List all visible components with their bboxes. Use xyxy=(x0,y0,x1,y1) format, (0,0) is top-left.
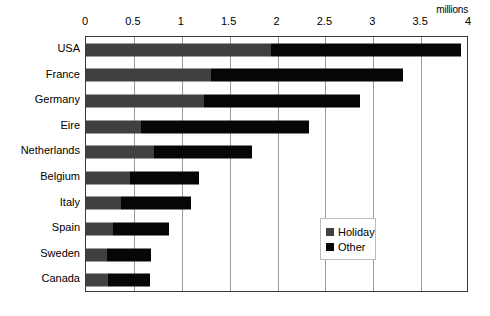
stacked-bar[interactable] xyxy=(86,274,150,287)
bar-row[interactable] xyxy=(86,63,467,89)
stacked-bar[interactable] xyxy=(86,43,461,56)
category-label: Germany xyxy=(0,87,80,113)
x-tick-label: 4 xyxy=(465,15,471,27)
y-axis-category-labels: USAFranceGermanyEireNetherlandsBelgiumIt… xyxy=(0,36,80,292)
legend-label: Holiday xyxy=(338,226,375,238)
bar-row[interactable] xyxy=(86,114,467,140)
bar-segment-other[interactable] xyxy=(121,197,191,210)
x-tick-label: 0 xyxy=(82,15,88,27)
bar-segment-holiday[interactable] xyxy=(86,94,204,107)
stacked-bar[interactable] xyxy=(86,120,309,133)
bar-row[interactable] xyxy=(86,88,467,114)
bar-segment-holiday[interactable] xyxy=(86,120,141,133)
legend-item[interactable]: Holiday xyxy=(326,224,370,239)
bar-rows xyxy=(86,37,467,291)
stacked-bar[interactable] xyxy=(86,146,252,159)
x-axis-tick-labels: 00.511.522.533.54 xyxy=(0,15,490,31)
bar-segment-holiday[interactable] xyxy=(86,274,108,287)
bar-segment-other[interactable] xyxy=(141,120,310,133)
x-tick-label: 2 xyxy=(273,15,279,27)
stacked-bar[interactable] xyxy=(86,197,191,210)
bar-chart: millions 00.511.522.533.54 USAFranceGerm… xyxy=(0,0,490,316)
bar-row[interactable] xyxy=(86,37,467,63)
bar-segment-holiday[interactable] xyxy=(86,146,154,159)
bar-row[interactable] xyxy=(86,242,467,268)
bar-row[interactable] xyxy=(86,191,467,217)
plot-area xyxy=(85,36,468,292)
bar-segment-other[interactable] xyxy=(154,146,252,159)
bar-segment-other[interactable] xyxy=(107,248,151,261)
category-label: Italy xyxy=(0,190,80,216)
stacked-bar[interactable] xyxy=(86,69,403,82)
legend-item[interactable]: Other xyxy=(326,239,370,254)
bar-segment-holiday[interactable] xyxy=(86,171,130,184)
stacked-bar[interactable] xyxy=(86,222,169,235)
bar-segment-other[interactable] xyxy=(108,274,150,287)
stacked-bar[interactable] xyxy=(86,171,199,184)
x-tick-label: 3.5 xyxy=(412,15,427,27)
stacked-bar[interactable] xyxy=(86,94,360,107)
x-tick-label: 1.5 xyxy=(221,15,236,27)
legend-label: Other xyxy=(338,241,366,253)
category-label: Sweden xyxy=(0,241,80,267)
stacked-bar[interactable] xyxy=(86,248,151,261)
x-tick-label: 2.5 xyxy=(317,15,332,27)
bar-row[interactable] xyxy=(86,139,467,165)
chart-legend: HolidayOther xyxy=(320,218,376,260)
axis-unit-label: millions xyxy=(436,4,468,15)
category-label: Canada xyxy=(0,266,80,292)
bar-segment-other[interactable] xyxy=(130,171,199,184)
bar-segment-holiday[interactable] xyxy=(86,69,211,82)
bar-segment-holiday[interactable] xyxy=(86,248,107,261)
category-label: France xyxy=(0,62,80,88)
bar-segment-other[interactable] xyxy=(113,222,169,235)
bar-row[interactable] xyxy=(86,267,467,293)
category-label: USA xyxy=(0,36,80,62)
bar-segment-holiday[interactable] xyxy=(86,222,113,235)
bar-row[interactable] xyxy=(86,165,467,191)
x-tick-label: 1 xyxy=(178,15,184,27)
bar-segment-holiday[interactable] xyxy=(86,197,121,210)
bar-segment-holiday[interactable] xyxy=(86,43,271,56)
legend-swatch-icon xyxy=(326,228,334,236)
bar-segment-other[interactable] xyxy=(271,43,462,56)
category-label: Spain xyxy=(0,215,80,241)
bar-segment-other[interactable] xyxy=(211,69,403,82)
category-label: Netherlands xyxy=(0,138,80,164)
bar-segment-other[interactable] xyxy=(204,94,360,107)
bar-row[interactable] xyxy=(86,216,467,242)
legend-swatch-icon xyxy=(326,243,334,251)
category-label: Belgium xyxy=(0,164,80,190)
category-label: Eire xyxy=(0,113,80,139)
x-tick-label: 3 xyxy=(369,15,375,27)
x-tick-label: 0.5 xyxy=(125,15,140,27)
